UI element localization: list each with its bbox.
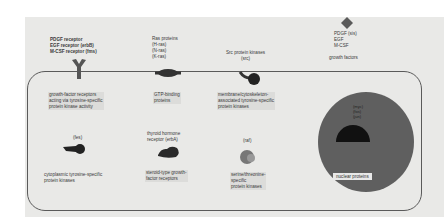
ras-label: Ras proteins (H-ras) (N-ras) (K-ras)	[152, 36, 178, 60]
nuclear-proteins-label: nuclear proteins	[333, 173, 372, 180]
growth-factor-ligands: PDGF (sis) EGF M-CSF	[334, 31, 357, 49]
nuclear-genes: (myc) (fos) (jun)	[353, 104, 363, 119]
src-kinase-icon	[238, 70, 262, 86]
thyroid-receptor-label: thyroid hormone receptor (erbA)	[147, 131, 180, 143]
membrane-kinases-label: membrane/cytoskeleton- associated tyrosi…	[217, 92, 275, 110]
gtp-binding-label: GTP-binding proteins	[153, 92, 181, 104]
growth-factor-diamond-icon	[341, 17, 353, 29]
fes-label: (fes)	[73, 135, 82, 141]
fes-kinase-icon	[62, 143, 88, 155]
receptor-y-icon	[70, 59, 88, 81]
gtp-binding-protein-icon	[155, 68, 181, 78]
serine-kinases-label: serine/threonine- specific protein kinas…	[230, 172, 266, 190]
growth-factor-receptors-label: growth-factor receptors acting via tyros…	[48, 92, 104, 110]
src-label: Src protein kinases (src)	[226, 50, 265, 62]
growth-factors-caption: growth factors	[329, 55, 358, 61]
steroid-receptor-icon	[157, 145, 181, 159]
raf-label: (raf)	[243, 138, 251, 144]
raf-kinase-icon	[238, 148, 258, 166]
steroid-receptors-label: steroid-type growth- factor receptors	[145, 170, 188, 182]
cytoplasmic-kinases-label: cytoplasmic tyrosine-specific protein ki…	[44, 172, 102, 184]
dna-binding-protein-icon	[336, 125, 370, 142]
receptors-label: PDGF receptor EGF receptor (erbB) M-CSF …	[50, 37, 97, 55]
